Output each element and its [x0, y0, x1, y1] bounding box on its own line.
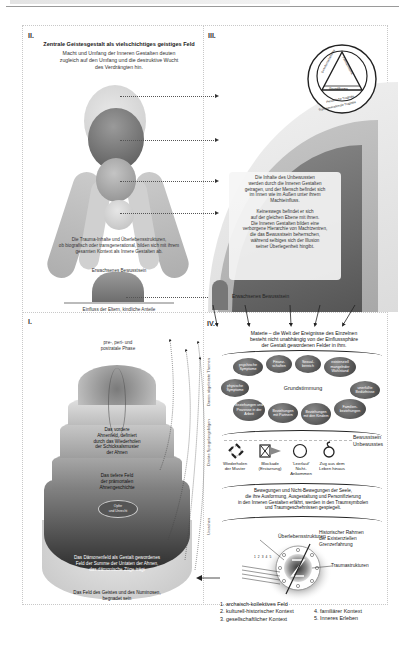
legend-left: 1. archaisch-kollektives Feld 2. kulture…	[220, 601, 294, 623]
panel-iii-label: III.	[208, 32, 216, 39]
pattern-label-blockade: Blockade (Erstarrung)	[253, 461, 287, 471]
text-line: der Gestalt gewordenen Felder in ihm.	[224, 343, 384, 349]
text-line: Ankommen	[288, 471, 314, 476]
info-box-para2: Keineswegs befindet er sich auf der glei…	[229, 204, 341, 250]
panel-iii-info-box: Die Inhalte des Unbewussten werden durch…	[229, 172, 341, 280]
panel-iii-adult-consciousness: Erwachsenes Bewusstsein	[232, 294, 289, 299]
figure-body	[92, 272, 144, 304]
repeat-arrows-icon	[228, 443, 244, 459]
subtitle-line: Macht und Umfang der Inneren Gestalten d…	[34, 50, 204, 57]
arrow-connector	[120, 213, 216, 214]
panel-ii-subtitle: Macht und Umfang der Inneren Gestalten d…	[34, 50, 204, 71]
bubble-beduerfnisse: unerfüllte Bedürfnisse	[350, 381, 380, 399]
bubble-wohlstand: existenziell mangelnder Wohlstand	[324, 357, 356, 377]
header-rule	[6, 6, 399, 7]
triangle-base-label: Grundthema	[329, 87, 348, 91]
bubble-psychische-symptome: psychische Symptome	[233, 358, 263, 376]
panel-ii-body: Die Trauma-Inhalte und Überlebensstruktu…	[34, 237, 204, 254]
panel-i-phase: pre-, peri- und postratale Phase	[88, 340, 148, 352]
text-line: und Traumgeschehnissen gespiegelt.	[218, 505, 388, 511]
info-box-para1: Die Inhalte des Unbewussten werden durch…	[229, 172, 341, 204]
legend-right: 4. familiärer Kontext 5. Inneres Erleben	[314, 608, 362, 623]
pattern-label-leerlauf: 'Leerlauf' Nicht- Ankommen	[288, 461, 314, 477]
bubble-sexualbereich: Sexual-bereich	[295, 355, 321, 373]
legend-item: 3. gesellschaftlicher Kontext	[220, 616, 294, 623]
bewusstsein-label: Bewusstsein	[353, 434, 383, 441]
ray-numbers: 1 2 3 4 5	[254, 555, 272, 559]
legend-item: 4. familiärer Kontext	[314, 608, 362, 615]
side-label-themes: Davon abgeleitete Themen	[206, 358, 211, 406]
body-line: ob biografisch oder transgenerational, b…	[34, 243, 204, 249]
text-line: der Muster	[219, 466, 251, 471]
bubble-arbeit: Beziehungen und Prozesse in der Arbeit	[233, 399, 265, 421]
bubble-physische-symptome: physische Symptome	[221, 379, 249, 397]
bubble-finanzen: Finanz-schaften	[266, 355, 292, 373]
brace	[222, 516, 382, 522]
body-line: gesamten Kontext als Innere Gestalten ab…	[34, 249, 204, 255]
legend-item: 5. Inneres Erleben	[314, 615, 362, 622]
bubble-partner: Beziehungen mit Partnern	[268, 403, 298, 423]
text-line: postratale Phase	[88, 346, 148, 352]
ground-line	[64, 302, 174, 304]
panel-ii-adult-consciousness: Erwachsenes Bewusstsein	[34, 268, 204, 274]
panel-iv-label: IV.	[207, 320, 215, 327]
consciousness-labels: Bewusstsein Unbewusstes	[353, 434, 383, 447]
arrow-connector	[126, 297, 216, 298]
text-line: begnadet sein	[46, 596, 188, 602]
trauma-wheel	[240, 538, 332, 604]
legend-item: 2. kulturell-historischer Kontext	[220, 608, 294, 615]
empty-circle-icon	[292, 443, 308, 459]
text-line: (Erstarrung)	[253, 466, 287, 471]
panel-i-center-oval: Opfer und Unrecht	[98, 500, 138, 518]
subtitle-line: des Verdrängten hin.	[34, 64, 204, 71]
curved-arrows	[140, 330, 210, 580]
text-line: und Unrecht	[99, 509, 137, 514]
blockade-icon	[259, 443, 283, 459]
pattern-label-repeat: Wiederholen der Muster	[219, 461, 251, 471]
panel-i-spirit-field: Das Feld des Geistes und des Numinosen, …	[46, 590, 188, 602]
arrow-connector	[120, 140, 216, 141]
sphere-mid-figure	[96, 158, 136, 202]
bubble-familie: Familien-beziehungen	[334, 399, 366, 419]
panel-ii-footer: Einfluss der Eltern, kindliche Anteile	[34, 307, 204, 313]
panel-ii-title: Zentrale Geistesgestalt als vielschichti…	[34, 41, 204, 47]
page-header-text	[10, 0, 290, 4]
text-line: seiner Überlegenheit hingibt.	[229, 244, 341, 250]
unbewusstes-label: Unbewusstes	[353, 441, 383, 448]
panel-i-label: I.	[28, 318, 32, 325]
label-trauma-structures: Traumastrukturen	[331, 563, 369, 568]
sphere-head	[104, 200, 134, 230]
text-line: Leben hinaus	[314, 466, 350, 471]
panel-iv-matter-text: Materie – die Welt der Ereignisse des Ei…	[224, 331, 384, 348]
panel-ii-label: II.	[28, 32, 34, 39]
pattern-label-exit: Zug aus dem Leben hinaus	[314, 461, 350, 471]
triangle-circle-emblem	[306, 42, 378, 120]
return-arrow	[196, 574, 222, 582]
side-label-mirroring: Direkte Spiegelungsfolgen	[206, 419, 211, 466]
grundstimmung-label: Grundstimmung	[268, 385, 338, 391]
bubble-kinder: Beziehungen mit den Kindern	[301, 403, 331, 425]
panel-iv-movement-text: Bewegungen und Nicht-Bewegungen der Seel…	[218, 488, 388, 511]
arrow-connector	[120, 181, 216, 182]
subtitle-line: zugleich auf den Umfang und die destrukt…	[34, 57, 204, 64]
legend-item: 1. archaisch-kollektives Feld	[220, 601, 294, 608]
exit-loop-icon	[322, 441, 336, 459]
side-label-causes: Ursachen	[206, 518, 211, 535]
arrow-connector	[120, 96, 216, 97]
